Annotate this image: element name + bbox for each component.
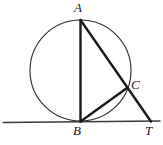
vertex-label-b: B bbox=[73, 124, 81, 137]
segment-chord-bc bbox=[81, 88, 128, 122]
geometry-figure: A C B T bbox=[0, 0, 163, 145]
geometry-canvas bbox=[0, 0, 163, 145]
vertex-label-a: A bbox=[74, 1, 82, 14]
vertex-label-t: T bbox=[145, 124, 152, 137]
vertex-label-c: C bbox=[131, 78, 140, 91]
